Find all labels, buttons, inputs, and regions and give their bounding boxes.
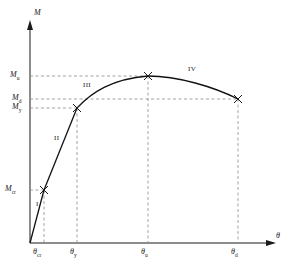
y-tick-m-cr-base: M [5,184,12,193]
x-tick-theta-u-sub: u [145,252,148,258]
curve-stage-ii [44,108,77,190]
y-axis-arrow [27,20,33,30]
x-axis-arrow [266,240,276,246]
y-tick-m-y-sub: y [19,107,22,113]
x-tick-theta-d: θd [231,247,238,258]
curve-stage-i [30,190,44,243]
x-axis-label: θ [276,231,280,240]
x-tick-theta-cr-sub: cr [37,252,41,258]
y-axis-label: M [34,8,41,17]
y-tick-m-d-base: M [12,93,19,102]
x-tick-theta-u: θu [141,247,148,258]
curve-stage-iv [148,76,238,99]
y-tick-m-u-sub: u [17,75,20,81]
x-tick-theta-cr: θcr [33,247,41,258]
y-tick-m-u: Mu [10,70,19,81]
y-tick-m-cr-sub: cr [12,189,16,195]
x-tick-theta-y-sub: y [74,252,77,258]
y-tick-m-y: My [12,102,21,113]
stage-label-i: I [36,200,39,208]
diagram-canvas [0,0,294,267]
stage-label-ii: II [54,134,59,142]
y-tick-m-u-base: M [10,70,17,79]
x-tick-theta-d-sub: d [235,252,238,258]
y-tick-m-cr: Mcr [5,184,16,195]
x-tick-theta-y: θy [70,247,77,258]
moment-rotation-diagram: M θ θcr θy θu θd Mu Md My Mcr I II III I… [0,0,294,267]
stage-label-iii: III [83,81,91,89]
stage-label-iv: IV [188,65,196,73]
y-tick-m-y-base: M [12,102,19,111]
